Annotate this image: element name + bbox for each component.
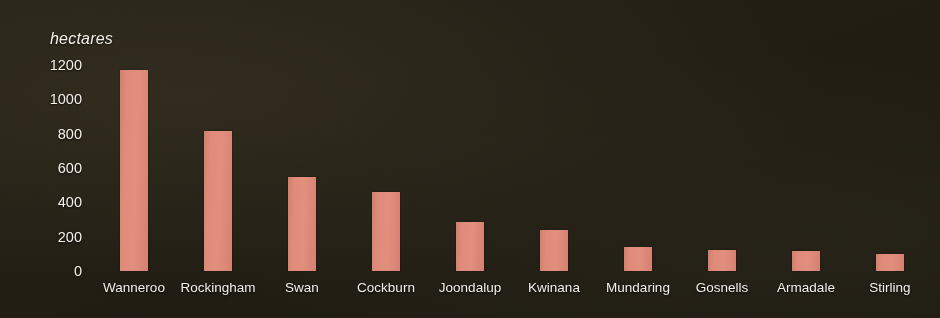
bar [372, 192, 400, 271]
x-axis-category-label: Armadale [777, 280, 835, 295]
bar-group: Mundaring [596, 0, 680, 318]
bar-group: Kwinana [512, 0, 596, 318]
bar [540, 230, 568, 271]
bar [204, 131, 232, 271]
bar-group: Cockburn [344, 0, 428, 318]
bar-group: Joondalup [428, 0, 512, 318]
bar [288, 177, 316, 271]
x-axis-category-label: Mundaring [606, 280, 670, 295]
x-axis-category-label: Swan [285, 280, 319, 295]
x-axis-category-label: Gosnells [696, 280, 749, 295]
bar [120, 70, 148, 271]
x-axis-category-label: Cockburn [357, 280, 415, 295]
bar-group: Wanneroo [92, 0, 176, 318]
bar [792, 251, 820, 271]
bars-layer: WannerooRockinghamSwanCockburnJoondalupK… [0, 0, 940, 318]
bar-chart-figure: hectares 120010008006004002000 WannerooR… [0, 0, 940, 318]
x-axis-category-label: Kwinana [528, 280, 580, 295]
bar-group: Swan [260, 0, 344, 318]
bar-group: Armadale [764, 0, 848, 318]
bar [456, 222, 484, 271]
x-axis-category-label: Joondalup [439, 280, 501, 295]
bar [876, 254, 904, 271]
bar [624, 247, 652, 271]
x-axis-category-label: Wanneroo [103, 280, 165, 295]
bar-group: Stirling [848, 0, 932, 318]
bar-group: Rockingham [176, 0, 260, 318]
x-axis-category-label: Rockingham [180, 280, 255, 295]
bar [708, 250, 736, 271]
x-axis-category-label: Stirling [869, 280, 910, 295]
plot-area: 120010008006004002000 WannerooRockingham… [0, 0, 940, 318]
bar-group: Gosnells [680, 0, 764, 318]
